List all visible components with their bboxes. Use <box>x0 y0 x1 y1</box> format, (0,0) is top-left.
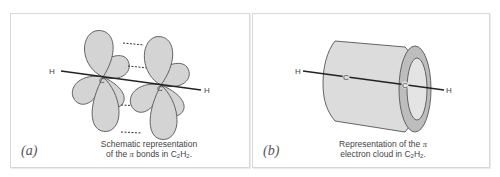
atom-c-right: C <box>402 81 408 90</box>
caption-b: Representation of the π electron cloud i… <box>313 139 453 161</box>
atom-c-left: C <box>99 76 105 85</box>
panel-label-a: (a) <box>21 143 37 159</box>
atom-h-left: H <box>295 67 301 76</box>
panel-a-pi-bonds-schematic: H C C H (a) Schematic representation of … <box>10 13 250 168</box>
panel-label-b: (b) <box>263 143 279 159</box>
pi-symbol: π <box>423 139 427 149</box>
atom-c-right: C <box>157 84 163 93</box>
caption-a: Schematic representation of the π bonds … <box>79 139 219 161</box>
atom-h-right: H <box>446 86 452 95</box>
atom-h-left: H <box>49 67 55 76</box>
atom-c-left: C <box>343 73 349 82</box>
panel-b-pi-electron-cloud: H C C H (b) Representation of the π elec… <box>252 13 490 168</box>
atom-h-right: H <box>204 86 210 95</box>
cylinder-end-cap-inner <box>407 58 427 120</box>
